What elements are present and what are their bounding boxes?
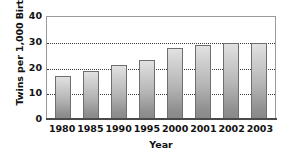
x-tick-label-1980: 1980 — [48, 122, 76, 138]
bar-slot-1985 — [77, 17, 105, 119]
x-tick-label-1985: 1985 — [76, 122, 104, 138]
x-tick-label-2003: 2003 — [246, 122, 274, 138]
x-axis-line — [46, 118, 277, 120]
y-tick-label-30: 30 — [18, 37, 42, 47]
bar-slot-1990 — [105, 17, 133, 119]
bar-2001 — [195, 45, 211, 119]
bar-1985 — [83, 71, 99, 119]
bar-slot-2003 — [245, 17, 273, 119]
x-tick-label-2002: 2002 — [218, 122, 246, 138]
y-tick-label-10: 10 — [18, 88, 42, 98]
bar-slot-2000 — [161, 17, 189, 119]
x-tick-label-2001: 2001 — [189, 122, 217, 138]
x-tick-label-2000: 2000 — [161, 122, 189, 138]
bar-slot-1995 — [133, 17, 161, 119]
bar-chart: Twins per 1,000 Births 40 30 20 10 0 198… — [0, 0, 284, 157]
plot-area — [46, 16, 276, 119]
x-tick-label-1995: 1995 — [133, 122, 161, 138]
x-axis-tick-labels: 1980 1985 1990 1995 2000 2001 2002 2003 — [46, 122, 276, 138]
y-axis-tick-labels: 40 30 20 10 0 — [18, 0, 42, 157]
bar-1990 — [111, 65, 127, 119]
x-axis-title: Year — [46, 139, 276, 150]
bar-slot-1980 — [49, 17, 77, 119]
bar-2003 — [251, 43, 267, 120]
y-tick-label-20: 20 — [18, 63, 42, 73]
bar-2000 — [167, 48, 183, 119]
x-tick-label-1990: 1990 — [105, 122, 133, 138]
bar-series — [47, 17, 275, 119]
bar-1980 — [55, 76, 71, 119]
bar-slot-2001 — [189, 17, 217, 119]
bar-2002 — [223, 43, 239, 120]
bar-slot-2002 — [217, 17, 245, 119]
bar-1995 — [139, 60, 155, 119]
y-tick-label-40: 40 — [18, 11, 42, 21]
y-tick-label-0: 0 — [18, 114, 42, 124]
